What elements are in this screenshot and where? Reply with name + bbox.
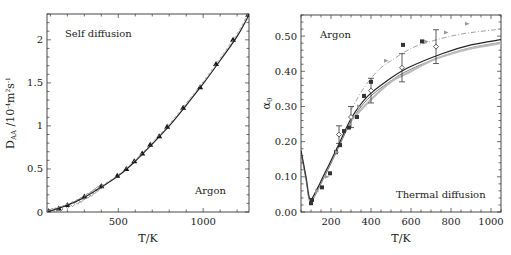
x-tick-label: 1000: [190, 216, 215, 227]
data-point-square: [342, 129, 346, 133]
y-tick-label: 0.20: [275, 136, 297, 147]
y-tick-label: 0.30: [275, 101, 297, 112]
x-axis-label: T/K: [391, 232, 411, 245]
curve-solid: [47, 15, 249, 212]
annotation-self-diffusion: Self diffusion: [65, 28, 132, 39]
data-point-diamond: [337, 132, 342, 137]
data-point-triangle: [465, 22, 470, 26]
data-point-diamond: [369, 88, 374, 93]
x-tick-label: 500: [109, 216, 128, 227]
data-point-diamond: [434, 44, 439, 49]
y-tick-label: 1.5: [27, 77, 43, 88]
x-axis-label: T/K: [138, 232, 158, 245]
data-point-triangle: [384, 59, 389, 63]
figure: 500100000.511.52T/KDAA /10-4m2s-1Self di…: [0, 0, 511, 255]
y-tick-label: 0: [37, 207, 43, 218]
data-point-square: [401, 43, 405, 47]
curve-grey-band: [351, 43, 501, 120]
data-point-triangle: [444, 31, 449, 35]
y-tick-label: 0.10: [275, 171, 297, 182]
data-point-triangle: [325, 175, 330, 179]
data-point-square: [320, 185, 324, 189]
x-tick-label: 800: [441, 216, 460, 227]
y-axis-label: α0: [260, 98, 274, 110]
y-tick-label: 0.5: [27, 163, 43, 174]
annotation-thermal-diffusion: Thermal diffusion: [396, 189, 486, 200]
curve-solid: [301, 40, 501, 200]
x-tick-label: 1000: [478, 216, 503, 227]
y-tick-label: 2: [37, 34, 43, 45]
thermal-diffusion-plot: 20040060080010000.000.100.200.300.400.50…: [260, 15, 504, 245]
data-point-square: [355, 115, 359, 119]
annotation-argon: Argon: [319, 29, 351, 40]
plot-frame: [47, 14, 249, 212]
x-tick-label: 400: [361, 216, 380, 227]
x-tick-label: 200: [321, 216, 340, 227]
data-point-square: [362, 94, 366, 98]
y-axis-label: DAA /10-4m2s-1: [4, 77, 18, 149]
y-tick-label: 1: [37, 120, 43, 131]
self-diffusion-plot: 500100000.511.52T/KDAA /10-4m2s-1Self di…: [4, 12, 251, 245]
data-point-square: [328, 171, 332, 175]
x-tick-label: 600: [401, 216, 420, 227]
y-tick-label: 0.50: [275, 31, 297, 42]
y-tick-label: 0.40: [275, 66, 297, 77]
data-point-square: [310, 198, 314, 202]
data-point-square: [420, 39, 424, 43]
annotation-argon: Argon: [194, 185, 226, 196]
y-tick-label: 0.00: [275, 207, 297, 218]
